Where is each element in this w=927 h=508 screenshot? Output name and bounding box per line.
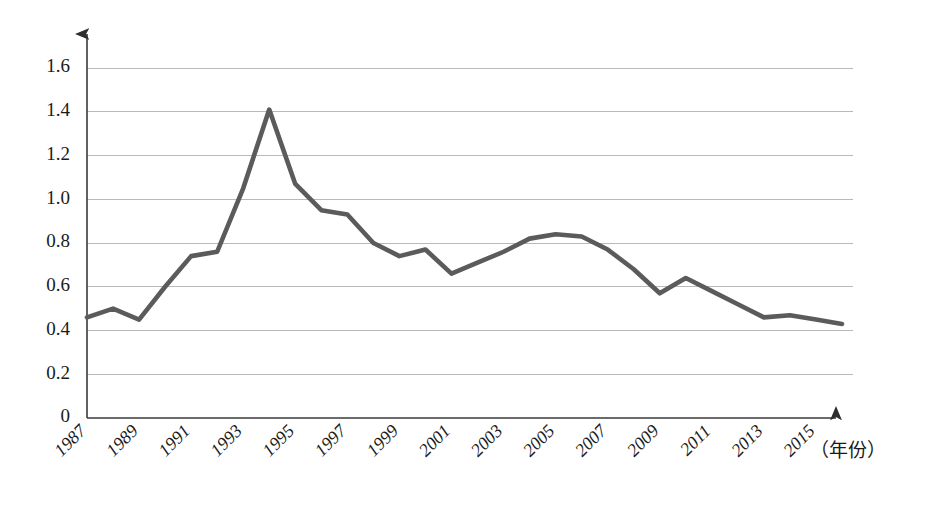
- x-axis-tick-label: 2009: [623, 421, 663, 461]
- y-axis-tick-label: 0.4: [46, 318, 70, 339]
- data-series-line: [87, 110, 842, 324]
- y-axis-tick-label: 1.0: [46, 187, 70, 208]
- x-axis-caption: （年份）: [810, 440, 886, 461]
- gridlines: [87, 68, 853, 374]
- x-axis-tick-label: 2003: [467, 421, 507, 461]
- y-axis-tick-label: 1.4: [46, 99, 70, 120]
- x-axis-tick-label: 1993: [206, 421, 246, 461]
- x-axis-tick-label: 2005: [519, 421, 559, 461]
- y-axis-tick-labels: 00.20.40.60.81.01.21.41.6: [46, 55, 70, 426]
- x-axis-tick-label: 1987: [50, 420, 90, 460]
- chart-container: 00.20.40.60.81.01.21.41.6 19871989199119…: [0, 0, 927, 508]
- x-axis-tick-label: 1989: [102, 421, 142, 461]
- x-axis-tick-labels: 1987198919911993199519971999200120032005…: [50, 420, 819, 460]
- y-axis-tick-label: 0.8: [46, 230, 70, 251]
- y-axis-tick-label: 0.6: [46, 274, 70, 295]
- x-axis-tick-label: 1991: [154, 421, 194, 461]
- y-axis-tick-label: 1.6: [46, 55, 70, 76]
- x-axis-tick-label: 2011: [676, 421, 715, 460]
- y-axis-tick-label: 1.2: [46, 143, 70, 164]
- y-axis-tick-label: 0: [61, 405, 71, 426]
- x-axis-tick-label: 1999: [363, 421, 403, 461]
- x-axis-tick-label: 2001: [415, 421, 455, 461]
- x-axis-tick-label: 1997: [311, 420, 351, 460]
- x-axis-tick-label: 1995: [259, 421, 299, 461]
- line-chart: 00.20.40.60.81.01.21.41.6 19871989199119…: [0, 0, 927, 508]
- x-axis-tick-label: 2007: [571, 420, 611, 460]
- x-axis-tick-label: 2013: [727, 421, 767, 461]
- y-axis-tick-label: 0.2: [46, 362, 70, 383]
